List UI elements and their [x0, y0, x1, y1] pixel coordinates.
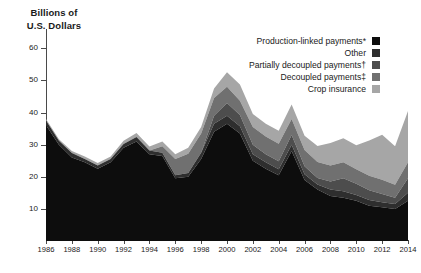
- legend-item[interactable]: Other: [345, 48, 381, 58]
- x-tick-label: 1986: [38, 246, 55, 254]
- x-tick-label: 2014: [400, 246, 417, 254]
- legend-item[interactable]: Decoupled payments‡: [280, 72, 380, 82]
- x-tick-label: 2006: [296, 246, 313, 254]
- legend-item-label: Production-linked payments*: [257, 36, 366, 46]
- legend-item-label: Decoupled payments‡: [280, 72, 366, 82]
- legend-item-label: Crop insurance: [308, 84, 366, 94]
- y-tick-label: 50: [29, 76, 38, 84]
- y-axis-title-line-1: Billions of: [8, 6, 100, 19]
- x-tick-label: 1988: [63, 246, 80, 254]
- chart-legend: Production-linked payments*OtherPartiall…: [249, 36, 380, 94]
- legend-item-label: Other: [345, 48, 367, 58]
- legend-color-swatch: [372, 37, 380, 45]
- x-tick-label: 2012: [374, 246, 391, 254]
- legend-color-swatch: [372, 49, 380, 57]
- x-tick-label: 2010: [348, 246, 365, 254]
- legend-item[interactable]: Production-linked payments*: [257, 36, 380, 46]
- x-tick-label: 1992: [115, 246, 132, 254]
- stacked-area-chart: Billions of U.S. Dollars 102030405060 19…: [0, 0, 421, 273]
- legend-color-swatch: [372, 61, 380, 69]
- x-tick-label: 1996: [167, 246, 184, 254]
- legend-item[interactable]: Crop insurance: [308, 84, 380, 94]
- x-tick-label: 1998: [193, 246, 210, 254]
- x-tick-label: 2008: [322, 246, 339, 254]
- legend-item-label: Partially decoupled payments†: [249, 60, 366, 70]
- y-tick-label: 10: [29, 205, 38, 213]
- x-tick-mark: [408, 240, 409, 244]
- x-tick-label: 1990: [89, 246, 106, 254]
- y-tick-label: 20: [29, 173, 38, 181]
- x-tick-label: 2000: [219, 246, 236, 254]
- legend-color-swatch: [372, 85, 380, 93]
- y-tick-label: 40: [29, 109, 38, 117]
- y-tick-label: 30: [29, 141, 38, 149]
- legend-color-swatch: [372, 73, 380, 81]
- x-tick-label: 2004: [270, 246, 287, 254]
- x-tick-label: 2002: [244, 246, 261, 254]
- legend-item[interactable]: Partially decoupled payments†: [249, 60, 380, 70]
- x-tick-label: 1994: [141, 246, 158, 254]
- y-tick-label: 60: [29, 44, 38, 52]
